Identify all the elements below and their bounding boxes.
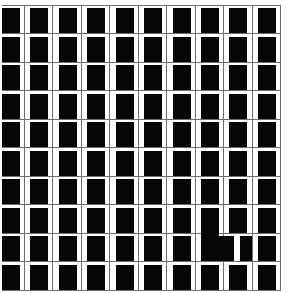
pattern-square xyxy=(30,65,48,90)
pattern-square xyxy=(59,179,77,204)
pattern-square xyxy=(116,236,134,261)
pattern-square xyxy=(30,179,48,204)
pattern-square xyxy=(144,179,162,204)
pattern-square xyxy=(258,8,276,33)
pattern-square xyxy=(258,94,276,119)
pattern-square xyxy=(30,265,48,290)
pattern-square xyxy=(229,179,247,204)
pattern-square xyxy=(2,265,20,290)
pattern-square xyxy=(59,208,77,233)
pattern-square xyxy=(173,122,191,147)
pattern-square xyxy=(201,265,219,290)
anomaly-enlarged-square xyxy=(201,236,234,261)
pattern-square xyxy=(87,265,105,290)
grid-line-vertical xyxy=(81,5,82,290)
pattern-square xyxy=(59,65,77,90)
pattern-square xyxy=(173,8,191,33)
pattern-square xyxy=(201,208,219,233)
pattern-square xyxy=(144,265,162,290)
grid-line-horizontal xyxy=(2,119,281,120)
pattern-square xyxy=(229,208,247,233)
pattern-square xyxy=(201,151,219,176)
pattern-square xyxy=(258,265,276,290)
pattern-square xyxy=(229,122,247,147)
pattern-square xyxy=(258,208,276,233)
pattern-square xyxy=(87,65,105,90)
pattern-square xyxy=(87,151,105,176)
pattern-square xyxy=(116,65,134,90)
pattern-square xyxy=(87,179,105,204)
pattern-square xyxy=(258,65,276,90)
pattern-square xyxy=(258,179,276,204)
grid-line-vertical xyxy=(138,5,139,290)
pattern-square xyxy=(173,236,191,261)
pattern-square xyxy=(116,151,134,176)
pattern-figure xyxy=(0,0,286,293)
pattern-square xyxy=(2,208,20,233)
pattern-square xyxy=(2,8,20,33)
pattern-square xyxy=(229,37,247,62)
pattern-square xyxy=(116,8,134,33)
grid-line-horizontal xyxy=(2,290,281,291)
pattern-square xyxy=(144,94,162,119)
grid-line-vertical xyxy=(195,5,196,290)
pattern-square xyxy=(144,151,162,176)
grid-line-horizontal xyxy=(2,233,281,234)
pattern-square xyxy=(30,37,48,62)
pattern-square xyxy=(2,151,20,176)
pattern-square xyxy=(2,94,20,119)
pattern-square xyxy=(144,208,162,233)
pattern-square xyxy=(258,236,276,261)
pattern-square xyxy=(201,8,219,33)
pattern-square xyxy=(87,236,105,261)
pattern-square xyxy=(173,265,191,290)
pattern-square xyxy=(229,94,247,119)
grid-line-vertical xyxy=(24,5,25,290)
grid-line-vertical xyxy=(52,5,53,290)
pattern-square xyxy=(30,8,48,33)
pattern-square xyxy=(173,37,191,62)
pattern-square xyxy=(173,179,191,204)
grid-line-horizontal xyxy=(2,261,281,262)
pattern-square xyxy=(59,265,77,290)
pattern-square xyxy=(258,37,276,62)
pattern-square xyxy=(59,94,77,119)
grid-line-horizontal xyxy=(2,90,281,91)
pattern-square xyxy=(144,236,162,261)
pattern-square xyxy=(87,37,105,62)
pattern-square xyxy=(59,236,77,261)
pattern-square xyxy=(201,37,219,62)
pattern-square xyxy=(2,65,20,90)
pattern-square xyxy=(201,122,219,147)
pattern-square xyxy=(173,208,191,233)
anomaly-narrowed-square xyxy=(240,236,252,261)
pattern-square xyxy=(30,236,48,261)
pattern-square xyxy=(201,65,219,90)
pattern-square xyxy=(59,37,77,62)
pattern-square xyxy=(173,94,191,119)
pattern-square xyxy=(201,179,219,204)
pattern-square xyxy=(144,122,162,147)
pattern-square xyxy=(201,94,219,119)
pattern-square xyxy=(144,65,162,90)
grid-line-vertical xyxy=(252,5,253,290)
pattern-square xyxy=(258,122,276,147)
pattern-square xyxy=(116,37,134,62)
pattern-square xyxy=(2,179,20,204)
pattern-square xyxy=(87,208,105,233)
pattern-square xyxy=(30,94,48,119)
pattern-square xyxy=(144,37,162,62)
pattern-square xyxy=(30,208,48,233)
pattern-square xyxy=(173,65,191,90)
pattern-square xyxy=(30,122,48,147)
pattern-square xyxy=(87,94,105,119)
pattern-square xyxy=(59,122,77,147)
pattern-square xyxy=(30,151,48,176)
pattern-square xyxy=(229,265,247,290)
pattern-square xyxy=(229,8,247,33)
pattern-square xyxy=(87,122,105,147)
pattern-square xyxy=(258,151,276,176)
pattern-square xyxy=(2,122,20,147)
pattern-square xyxy=(116,265,134,290)
grid-line-horizontal xyxy=(2,5,281,6)
